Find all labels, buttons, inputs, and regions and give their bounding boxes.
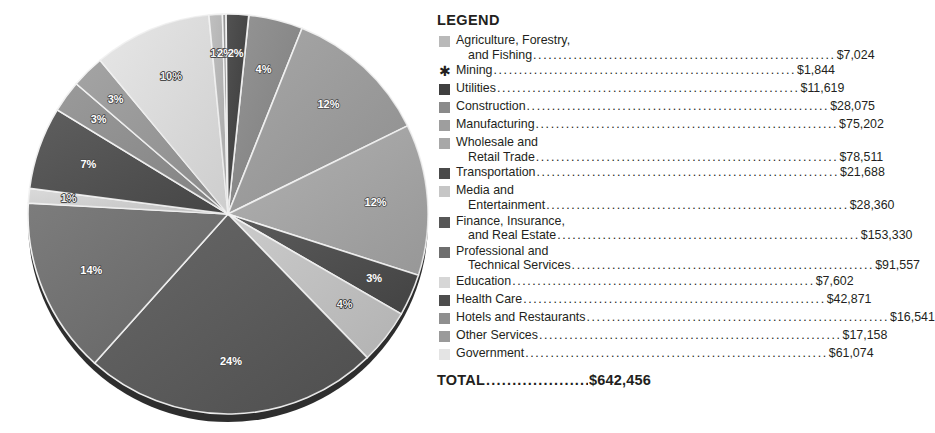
legend-leader-dots: ........................................… — [512, 274, 815, 289]
legend-item-name-line2: Retail Trade............................… — [456, 150, 883, 165]
legend-item-text: Utilities...............................… — [456, 81, 844, 96]
legend-item-value: $7,602 — [816, 274, 854, 289]
legend-item-name-line1: Government..............................… — [456, 346, 874, 361]
legend-item-name: Utilities — [456, 81, 496, 96]
legend-leader-dots: ........................................… — [536, 117, 839, 132]
legend-leader-dots: ........................................… — [557, 228, 860, 243]
legend-item-name-line1: Mining..................................… — [456, 63, 835, 78]
legend-swatch-icon — [439, 331, 450, 342]
legend: LEGEND Agriculture, Forestry,and Fishing… — [437, 12, 651, 388]
legend-leader-dots: ........................................… — [497, 81, 800, 96]
legend-item-text: Wholesale andRetail Trade...............… — [456, 135, 883, 164]
legend-total-row: TOTAL ..................................… — [437, 372, 651, 388]
legend-leader-dots: ........................................… — [533, 48, 836, 63]
legend-item-value: $21,688 — [840, 165, 885, 180]
legend-item-name-line2: and Fishing.............................… — [456, 48, 875, 63]
legend-total-label: TOTAL — [437, 372, 485, 388]
legend-item-name-line1: Education...............................… — [456, 274, 854, 289]
pie-slice-percent-label: 24% — [220, 355, 242, 367]
legend-item-name: Finance, Insurance, — [456, 214, 565, 229]
legend-item-name: Wholesale and — [456, 135, 538, 150]
legend-item-text: Construction............................… — [456, 99, 875, 114]
legend-item: Government..............................… — [437, 346, 651, 363]
legend-item-text: Professional andTechnical Services......… — [456, 244, 920, 273]
legend-item-name-cont: Technical Services — [456, 258, 571, 273]
legend-item: Other Services..........................… — [437, 328, 651, 345]
legend-item-text: Government..............................… — [456, 346, 874, 361]
legend-item-name: Government — [456, 346, 524, 361]
legend-item-name-line1: Transportation..........................… — [456, 165, 885, 180]
legend-leader-dots: ........................................… — [523, 292, 826, 307]
pie-slice-percent-label: 3% — [91, 113, 107, 125]
legend-leader-dots: ........................................… — [587, 310, 890, 325]
legend-item: Health Care.............................… — [437, 292, 651, 309]
pie-slice-percent-label: 3% — [108, 93, 124, 105]
legend-swatch-icon — [439, 168, 450, 179]
legend-item-name-cont: and Real Estate — [456, 228, 556, 243]
legend-item: Professional andTechnical Services......… — [437, 244, 651, 273]
legend-item-name-line1: Health Care.............................… — [456, 292, 871, 307]
legend-item-value: $28,075 — [830, 99, 875, 114]
pie-slice-percent-label: 2% — [228, 47, 244, 59]
legend-swatch-icon — [439, 120, 450, 131]
legend-list: Agriculture, Forestry,and Fishing.......… — [437, 33, 651, 363]
legend-item-text: Agriculture, Forestry,and Fishing.......… — [456, 33, 875, 62]
legend-item-value: $78,511 — [839, 150, 883, 165]
legend-leader-dots: ........................................… — [546, 198, 849, 213]
pie-slice-percent-label: 1% — [61, 192, 77, 204]
legend-item-name: Mining — [456, 63, 493, 78]
legend-swatch-icon — [439, 313, 450, 324]
legend-item-text: Finance, Insurance,and Real Estate......… — [456, 214, 912, 243]
legend-item-name: Transportation — [456, 165, 535, 180]
pie-slice-percent-label: 3% — [366, 272, 382, 284]
legend-swatch-icon — [439, 186, 450, 197]
legend-item: Wholesale andRetail Trade...............… — [437, 135, 651, 164]
legend-item-value: $153,330 — [861, 228, 913, 243]
legend-item: Finance, Insurance,and Real Estate......… — [437, 214, 651, 243]
pie-chart: 4%12%12%3%4%24%14%1%7%3%3%10%1%2%2% — [0, 0, 432, 433]
pie-slice-percent-label: 14% — [80, 264, 102, 276]
legend-swatch-icon — [439, 36, 450, 47]
legend-swatch-icon — [439, 277, 450, 288]
legend-item-text: Education...............................… — [456, 274, 854, 289]
legend-item-value: $17,158 — [843, 328, 888, 343]
legend-item-text: Media andEntertainment..................… — [456, 183, 895, 212]
legend-item-text: Other Services..........................… — [456, 328, 887, 343]
pie-slice-percent-label: 12% — [365, 196, 387, 208]
legend-item-value: $7,024 — [837, 48, 875, 63]
legend-swatch-icon — [439, 247, 450, 258]
legend-item-name: Health Care — [456, 292, 522, 307]
legend-item-name-line1: Hotels and Restaurants..................… — [456, 310, 935, 325]
legend-item: Hotels and Restaurants..................… — [437, 310, 651, 327]
legend-item-text: Hotels and Restaurants..................… — [456, 310, 935, 325]
legend-item-name: Media and — [456, 183, 514, 198]
legend-item-text: Transportation..........................… — [456, 165, 885, 180]
legend-item-name: Hotels and Restaurants — [456, 310, 586, 325]
legend-leader-dots: ........................................… — [527, 99, 830, 114]
legend-swatch-icon — [439, 102, 450, 113]
legend-item: Manufacturing...........................… — [437, 117, 651, 134]
legend-item-value: $11,619 — [801, 81, 845, 96]
legend-item-name: Other Services — [456, 328, 538, 343]
legend-item: Transportation..........................… — [437, 165, 651, 182]
legend-total-leader: ........................................… — [486, 372, 588, 388]
legend-item-value: $1,844 — [797, 63, 835, 78]
legend-item: Utilities...............................… — [437, 81, 651, 98]
legend-item: Construction............................… — [437, 99, 651, 116]
legend-item: Agriculture, Forestry,and Fishing.......… — [437, 33, 651, 62]
legend-item-name: Agriculture, Forestry, — [456, 33, 570, 48]
legend-item-name-line1: Manufacturing...........................… — [456, 117, 884, 132]
legend-item-name-line1: Media and — [456, 183, 895, 198]
legend-item: Media andEntertainment..................… — [437, 183, 651, 212]
legend-item-text: Health Care.............................… — [456, 292, 871, 307]
pie-slice-percent-label: 10% — [160, 70, 182, 82]
legend-item-name: Manufacturing — [456, 117, 535, 132]
legend-item-text: Manufacturing...........................… — [456, 117, 884, 132]
legend-item-name-cont: Entertainment — [456, 198, 545, 213]
legend-leader-dots: ........................................… — [539, 328, 842, 343]
legend-item-value: $42,871 — [827, 292, 872, 307]
pie-slice-percent-label: 7% — [80, 158, 96, 170]
legend-title: LEGEND — [437, 12, 651, 28]
legend-swatch-icon — [439, 217, 450, 228]
legend-leader-dots: ........................................… — [494, 63, 797, 78]
